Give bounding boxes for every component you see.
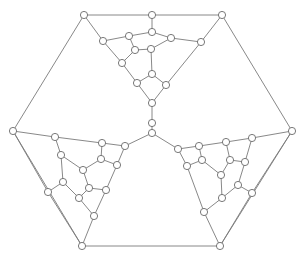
graph-node-hex_r: [288, 127, 295, 134]
graph-node-r11: [248, 189, 255, 196]
graph-node-center: [148, 129, 155, 136]
graph-node-l11: [44, 188, 51, 195]
graph-edge: [13, 131, 48, 192]
graph-edge: [199, 142, 226, 146]
graph-node-hex_l: [9, 127, 16, 134]
graph-node-t4: [167, 34, 174, 41]
graph-edge: [61, 155, 63, 182]
graph-node-l4: [57, 151, 64, 158]
graph-node-l9: [85, 184, 92, 191]
graph-edge: [152, 133, 178, 149]
graph-edge: [13, 15, 84, 131]
graph-node-r3: [222, 138, 229, 145]
graph-node-t13: [148, 119, 155, 126]
graph-nodes: [9, 11, 295, 249]
graph-node-l7: [79, 166, 86, 173]
graph-node-hex_br: [216, 242, 223, 249]
graph-node-r7: [226, 156, 233, 163]
graph-edge: [103, 41, 122, 63]
graph-edge: [125, 133, 152, 146]
graph-edge: [94, 190, 106, 216]
graph-node-r13: [200, 208, 207, 215]
graph-node-r12: [218, 194, 225, 201]
graph-node-l13: [90, 212, 97, 219]
graph-node-t8: [118, 59, 125, 66]
graph-node-r5: [183, 162, 190, 169]
graph-node-r4: [248, 134, 255, 141]
graph-node-l10: [102, 186, 109, 193]
graph-node-l6: [113, 161, 120, 168]
graph-node-t1: [99, 37, 106, 44]
graph-edge: [166, 42, 201, 85]
graph-node-l2: [98, 139, 105, 146]
graph-node-l8: [59, 178, 66, 185]
graph-node-hex_tm: [148, 11, 155, 18]
graph-edge: [171, 38, 201, 42]
graph-node-l3: [121, 142, 128, 149]
graph-node-t3: [148, 28, 155, 35]
graph-node-hex_tl: [80, 11, 87, 18]
graph-edge: [252, 131, 292, 193]
graph-edge: [222, 15, 292, 131]
graph-node-r2: [195, 142, 202, 149]
graph-edge: [106, 165, 117, 190]
graph-edge: [201, 15, 222, 42]
graph-node-t5: [197, 38, 204, 45]
graph-edge: [204, 212, 220, 246]
graph-node-t9: [148, 70, 155, 77]
graph-edge: [84, 15, 103, 41]
graph-node-l12: [75, 194, 82, 201]
graph-node-t6: [131, 46, 138, 53]
graph-node-r6: [198, 156, 205, 163]
graph-node-r10: [234, 181, 241, 188]
graph-edge: [187, 166, 204, 212]
graph-edge: [13, 131, 55, 137]
graph-node-l5: [97, 155, 104, 162]
graph-node-hex_tr: [218, 11, 225, 18]
graph-edge: [252, 131, 292, 138]
graph-node-hex_bl: [78, 242, 85, 249]
graph-node-r8: [241, 158, 248, 165]
graph-node-l1: [51, 133, 58, 140]
graph-node-t7: [147, 45, 154, 52]
graph-node-t2: [125, 32, 132, 39]
graph-node-t12: [148, 99, 155, 106]
graph-node-t10: [133, 79, 140, 86]
graph-node-r1: [174, 145, 181, 152]
graph-diagram: [0, 0, 306, 256]
graph-edge: [220, 193, 252, 246]
graph-node-r9: [217, 171, 224, 178]
graph-node-t11: [162, 81, 169, 88]
graph-edge: [55, 137, 102, 143]
graph-edge: [82, 216, 94, 246]
